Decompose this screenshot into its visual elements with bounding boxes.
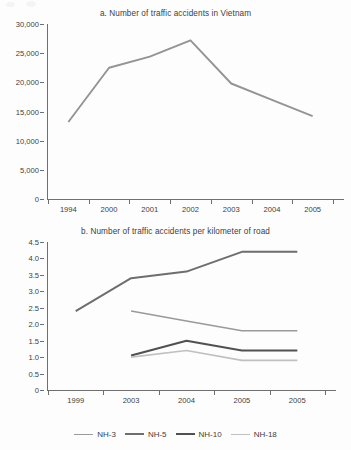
legend-label: NH-3: [97, 430, 116, 439]
x-tick-mark: [214, 391, 215, 395]
x-tick-mark: [129, 200, 130, 204]
x-tick-label: 2005: [304, 205, 321, 214]
x-axis-line: [47, 390, 336, 391]
x-tick-mark: [103, 391, 104, 395]
series-line-number of traffic accidents: [68, 40, 312, 122]
x-tick-mark: [325, 391, 326, 395]
x-tick-mark: [48, 200, 49, 204]
legend-swatch-icon: [231, 434, 250, 435]
x-tick-label: 2000: [101, 205, 118, 214]
legend-label: NH-5: [148, 430, 167, 439]
x-tick-label: 2003: [123, 396, 140, 405]
legend-item-nh-18[interactable]: NH-18: [231, 430, 277, 439]
x-tick-mark: [170, 200, 171, 204]
legend-item-nh-5[interactable]: NH-5: [125, 430, 167, 439]
panel-b-x-axis: 19992003200420052005: [0, 396, 351, 412]
x-tick-label: 2004: [178, 396, 195, 405]
panel-a-x-axis: 1994200020012002200320042005: [0, 205, 351, 221]
chart-panel-a: a. Number of traffic accidents in Vietna…: [0, 8, 351, 220]
x-tick-mark: [270, 391, 271, 395]
series-line-nh-5: [76, 252, 298, 311]
series-line-nh-3: [131, 311, 297, 331]
x-tick-label: 2001: [141, 205, 158, 214]
panel-b-plot-area: 00.51.01.52.02.53.03.54.04.5 19992003200…: [0, 242, 351, 390]
legend-label: NH-18: [254, 430, 277, 439]
legend-item-nh-10[interactable]: NH-10: [176, 430, 222, 439]
x-tick-mark: [292, 200, 293, 204]
series-line-nh-18: [131, 351, 297, 361]
panel-a-plot-area: 05,00010,00015,00020,00025,00030,000 199…: [0, 24, 351, 199]
legend-label: NH-10: [199, 430, 222, 439]
scan-artifact-left: [6, 2, 15, 7]
x-tick-mark: [252, 200, 253, 204]
legend-swatch-icon: [125, 433, 144, 435]
panel-a-title: a. Number of traffic accidents in Vietna…: [0, 8, 351, 19]
legend-item-nh-3[interactable]: NH-3: [74, 430, 116, 439]
x-tick-mark: [333, 200, 334, 204]
x-tick-mark: [89, 200, 90, 204]
x-tick-label: 2002: [182, 205, 199, 214]
legend-swatch-icon: [176, 433, 195, 435]
x-tick-label: 1999: [67, 396, 84, 405]
x-tick-label: 2003: [223, 205, 240, 214]
y-axis-line: [47, 24, 48, 200]
chart-panel-b: b. Number of traffic accidents per kilom…: [0, 226, 351, 450]
x-axis-line: [47, 199, 344, 200]
y-axis-line: [47, 242, 48, 391]
x-tick-label: 2005: [233, 396, 250, 405]
scan-artifact-right: [26, 1, 36, 7]
panel-b-series-layer: [0, 242, 351, 391]
x-tick-label: 2004: [263, 205, 280, 214]
legend-swatch-icon: [74, 434, 93, 435]
x-tick-mark: [211, 200, 212, 204]
x-tick-label: 2005: [289, 396, 306, 405]
panel-a-series-layer: [0, 24, 351, 200]
x-tick-mark: [159, 391, 160, 395]
figure-page: a. Number of traffic accidents in Vietna…: [0, 0, 351, 450]
panel-b-title: b. Number of traffic accidents per kilom…: [0, 226, 351, 237]
series-line-nh-10: [131, 341, 297, 356]
panel-b-legend: NH-3NH-5NH-10NH-18: [0, 424, 351, 444]
x-tick-label: 1994: [60, 205, 77, 214]
x-tick-mark: [48, 391, 49, 395]
